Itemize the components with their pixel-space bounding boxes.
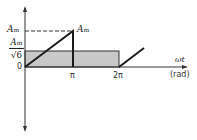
y-axis-arrow-up-icon bbox=[23, 6, 27, 12]
x-axis-arrow-icon bbox=[182, 65, 188, 69]
y-label-peak: Am bbox=[7, 25, 19, 34]
x-tick-pi: π bbox=[70, 71, 75, 80]
x-tick-2pi: 2π bbox=[113, 71, 123, 80]
y-label-zero: 0 bbox=[17, 62, 22, 71]
x-axis-unit: (rad) bbox=[170, 70, 190, 79]
sawtooth-wave-period-2 bbox=[119, 48, 144, 67]
sawtooth-diagram bbox=[0, 0, 197, 140]
y-label-rms: Am √6 bbox=[9, 37, 24, 60]
y-axis-arrow-down-icon bbox=[23, 126, 27, 132]
peak-annotation: Am bbox=[77, 25, 89, 34]
x-axis-label: ωt bbox=[175, 56, 185, 64]
